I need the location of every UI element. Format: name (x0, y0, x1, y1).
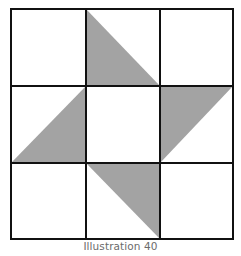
triangle-middle-left (11, 86, 86, 163)
triangle-middle-right (160, 86, 233, 163)
figure-caption: Illustration 40 (0, 240, 241, 252)
triangle-top-middle (86, 9, 160, 86)
grid-lines (10, 8, 234, 240)
triangle-bottom-middle (86, 163, 160, 239)
shaded-triangles (11, 9, 233, 239)
quilt-block-diagram (0, 0, 241, 256)
